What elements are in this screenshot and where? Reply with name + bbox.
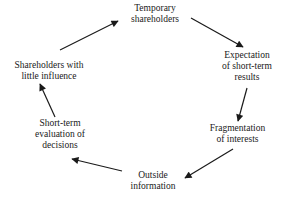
node-line: Temporary [120, 3, 190, 14]
node-line: Short-term [25, 118, 95, 129]
arrow-temporary-to-expectation [191, 18, 243, 47]
node-expectation-short-term-results: Expectation of short-term results [212, 50, 282, 83]
node-line: evaluation of [25, 129, 95, 140]
node-line: information [118, 181, 188, 192]
arrows-layer [0, 0, 283, 197]
arrow-evaluation-to-influence [40, 84, 55, 117]
node-shareholders-little-influence: Shareholders with little influence [8, 60, 90, 82]
node-short-term-evaluation: Short-term evaluation of decisions [25, 118, 95, 151]
node-fragmentation-of-interests: Fragmentation of interests [200, 123, 275, 145]
node-line: shareholders [120, 14, 190, 25]
node-line: Outside [118, 170, 188, 181]
node-line: decisions [25, 140, 95, 151]
node-line: Expectation [212, 50, 282, 61]
node-line: of short-term [212, 61, 282, 72]
node-outside-information: Outside information [118, 170, 188, 192]
node-line: results [212, 72, 282, 83]
node-line: little influence [8, 71, 90, 82]
arrow-influence-to-temporary [60, 21, 118, 50]
node-line: Shareholders with [8, 60, 90, 71]
node-line: Fragmentation [200, 123, 275, 134]
node-line: of interests [200, 134, 275, 145]
arrow-outside-to-evaluation [72, 159, 122, 171]
arrow-fragmentation-to-outside [185, 149, 233, 178]
arrow-expectation-to-fragmentation [238, 88, 247, 121]
node-temporary-shareholders: Temporary shareholders [120, 3, 190, 25]
